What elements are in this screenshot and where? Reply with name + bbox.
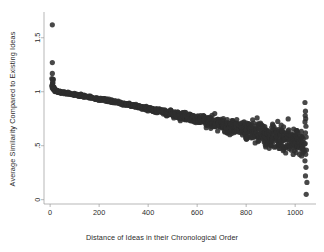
x-tick-label: 400 <box>142 208 154 217</box>
y-axis-title: Average Similarity Compared to Existing … <box>8 10 17 208</box>
data-point <box>304 134 309 139</box>
data-point <box>50 60 55 65</box>
data-point <box>303 124 308 129</box>
x-tick-label: 200 <box>93 208 105 217</box>
data-point <box>250 122 255 127</box>
y-tick-label: 1 <box>33 90 42 94</box>
data-point <box>302 158 307 163</box>
scatter-chart: 0.511.502004006008001000 Average Similar… <box>0 0 324 252</box>
data-point <box>212 111 217 116</box>
data-points <box>49 22 309 197</box>
y-tick-label: 1.5 <box>33 33 42 43</box>
data-point <box>286 116 291 121</box>
data-point <box>303 173 308 178</box>
data-point <box>304 192 309 197</box>
data-point <box>304 180 309 185</box>
data-point <box>302 100 307 105</box>
data-point <box>302 119 307 124</box>
axis-layer <box>41 12 316 207</box>
y-tick-label: 0 <box>33 198 42 202</box>
data-point <box>303 165 308 170</box>
data-point <box>304 147 309 152</box>
x-tick-label: 800 <box>240 208 252 217</box>
data-point <box>50 71 55 76</box>
data-point <box>283 150 288 155</box>
data-point <box>303 152 308 157</box>
data-point <box>50 22 55 27</box>
x-tick-label: 1000 <box>287 208 303 217</box>
x-tick-label: 600 <box>191 208 203 217</box>
y-tick-label: .5 <box>33 143 42 149</box>
x-tick-label: 0 <box>48 208 52 217</box>
data-point <box>303 130 308 135</box>
x-axis-title: Distance of Ideas in their Chronological… <box>0 233 324 242</box>
plot-area: 0.511.502004006008001000 <box>0 0 324 252</box>
data-point <box>255 115 260 120</box>
data-point <box>303 141 308 146</box>
